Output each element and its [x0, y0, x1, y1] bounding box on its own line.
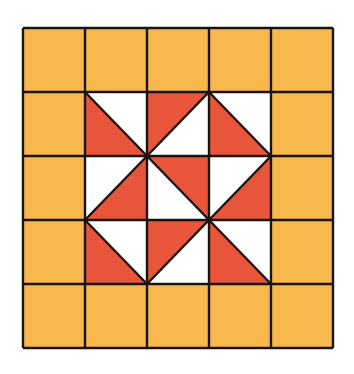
border-cell	[271, 284, 333, 348]
border-cell	[271, 92, 333, 156]
border-cell	[23, 28, 85, 92]
border-cell	[271, 28, 333, 92]
border-cell	[271, 220, 333, 284]
border-cell	[147, 28, 209, 92]
border-cell	[23, 284, 85, 348]
quilt-diagram	[0, 0, 354, 374]
border-cell	[85, 284, 147, 348]
border-cell	[23, 220, 85, 284]
border-cell	[85, 28, 147, 92]
border-cell	[23, 156, 85, 220]
border-cell	[209, 284, 271, 348]
border-cell	[209, 28, 271, 92]
border-cell	[147, 284, 209, 348]
border-cell	[271, 156, 333, 220]
border-cell	[23, 92, 85, 156]
